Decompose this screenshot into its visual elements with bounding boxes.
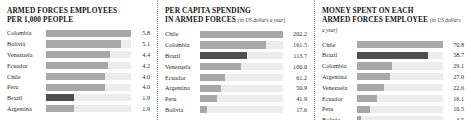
bar-track xyxy=(357,52,443,59)
bar-row: Chile202.2 xyxy=(165,29,307,39)
bar-track xyxy=(46,84,131,91)
bar-row-value: 29.1 xyxy=(446,61,464,71)
bar-row-value: 61.2 xyxy=(286,73,307,83)
panel-1-title-line1: ARMED FORCES EMPLOYEES xyxy=(7,6,117,15)
bar-track xyxy=(200,95,283,102)
bar-row-value: 1.9 xyxy=(134,93,150,103)
bar-row-label: Venezuela xyxy=(7,50,44,60)
bar-row: Colombia5.8 xyxy=(7,28,150,38)
bar-row: Venezuela100.0 xyxy=(165,62,307,72)
bar-row-label: Brazil xyxy=(165,51,198,61)
panel-1-title-line2: PER 1,000 PEOPLE xyxy=(7,15,73,24)
bar xyxy=(357,41,443,48)
bar-highlighted xyxy=(46,94,74,101)
bar-row: Chile70.8 xyxy=(322,40,464,50)
armed-forces-infographic: ARMED FORCES EMPLOYEES PER 1,000 PEOPLE … xyxy=(0,0,471,120)
bar-track xyxy=(200,41,283,48)
bar-highlighted xyxy=(357,52,428,59)
bar-row: Peru10.5 xyxy=(322,104,464,114)
bar-row-label: Chile xyxy=(165,29,198,39)
bar-row-value: 70.8 xyxy=(446,40,464,50)
bar-row: Colombia161.5 xyxy=(165,40,307,50)
panel-3-rows: Chile70.8Brazil58.7Colombia29.1Argentina… xyxy=(322,40,464,120)
bar-row: Colombia29.1 xyxy=(322,61,464,71)
panel-2-title-line1: PER CAPITA SPENDING xyxy=(165,6,251,15)
bar-row-label: Ecuador xyxy=(165,73,198,83)
bar-track xyxy=(46,51,131,58)
bar-row-label: Peru xyxy=(7,82,44,92)
bar-row-value: 4.0 xyxy=(134,72,150,82)
bar-row-value: 27.0 xyxy=(446,72,464,82)
bar-row-label: Ecuador xyxy=(7,61,44,71)
bar-row: Venezuela22.6 xyxy=(322,83,464,93)
bar-row: Peru41.9 xyxy=(165,94,307,104)
bar-track xyxy=(357,73,443,80)
bar-row-value: 202.2 xyxy=(286,29,307,39)
panel-1-title: ARMED FORCES EMPLOYEES PER 1,000 PEOPLE xyxy=(7,6,150,24)
bar-row: Venezuela4.4 xyxy=(7,50,150,60)
bar-row: Argentina27.0 xyxy=(322,72,464,82)
bar-row: Bolivia5.1 xyxy=(7,39,150,49)
bar xyxy=(357,73,390,80)
bar xyxy=(200,31,283,38)
bar-row: Bolivia17.6 xyxy=(165,105,307,115)
bar xyxy=(46,51,110,58)
bar-track xyxy=(200,74,283,81)
bar-row-value: 113.7 xyxy=(286,51,307,61)
bar-track xyxy=(357,116,443,120)
bar xyxy=(200,74,225,81)
bar-track xyxy=(357,95,443,102)
bar-row: Argentina50.9 xyxy=(165,83,307,93)
bar-row: Argentina1.9 xyxy=(7,104,150,114)
bar-row-value: 1.9 xyxy=(134,104,150,114)
panel-3-title-line1: MONEY SPENT ON EACH xyxy=(322,6,414,15)
bar-track xyxy=(200,85,283,92)
bar-row-value: 50.9 xyxy=(286,83,307,93)
bar-highlighted xyxy=(200,52,247,59)
panel-2-title: PER CAPITA SPENDING IN ARMED FORCES (in … xyxy=(165,6,307,25)
bar-row: Bolivia3.5 xyxy=(322,115,464,120)
bar-row-value: 16.1 xyxy=(446,94,464,104)
bar xyxy=(357,95,377,102)
bar-row-label: Bolivia xyxy=(7,39,44,49)
bar-row-label: Brazil xyxy=(7,93,44,103)
bar-row-value: 41.9 xyxy=(286,94,307,104)
bar-track xyxy=(357,62,443,69)
bar xyxy=(46,62,108,69)
panel-2-unit-note: (in US dollars a year) xyxy=(238,17,285,23)
bar xyxy=(200,63,241,70)
bar-track xyxy=(46,105,131,112)
bar-row-label: Bolivia xyxy=(165,105,198,115)
bar xyxy=(200,106,207,113)
bar xyxy=(200,85,221,92)
bar-row-label: Bolivia xyxy=(322,115,355,120)
bar-row-label: Argentina xyxy=(165,83,198,93)
panel-3-title-line2: ARMED FORCES EMPLOYEE xyxy=(322,15,428,24)
panel-per-capita-spending: PER CAPITA SPENDING IN ARMED FORCES (in … xyxy=(157,0,314,120)
bar-track xyxy=(46,73,131,80)
bar-row-value: 22.6 xyxy=(446,83,464,93)
bar xyxy=(200,95,217,102)
bar-row-value: 161.5 xyxy=(286,40,307,50)
bar-track xyxy=(200,31,283,38)
bar-row-label: Chile xyxy=(7,72,44,82)
bar-track xyxy=(46,94,131,101)
bar-row-value: 4.2 xyxy=(134,61,150,71)
panel-1-rows: Colombia5.8Bolivia5.1Venezuela4.4Ecuador… xyxy=(7,28,150,114)
bar-row-label: Colombia xyxy=(322,61,355,71)
bar-row-label: Chile xyxy=(322,40,355,50)
panel-2-rows: Chile202.2Colombia161.5Brazil113.7Venezu… xyxy=(165,29,307,115)
bar-row: Brazil113.7 xyxy=(165,51,307,61)
bar-row-label: Ecuador xyxy=(322,94,355,104)
bar xyxy=(46,105,74,112)
bar-track xyxy=(200,63,283,70)
bar-track xyxy=(357,84,443,91)
bar-row: Brazil1.9 xyxy=(7,93,150,103)
bar-row-label: Colombia xyxy=(165,40,198,50)
bar-track xyxy=(46,62,131,69)
bar-row-value: 3.5 xyxy=(446,115,464,120)
bar-row: Peru4.0 xyxy=(7,82,150,92)
bar-row-label: Argentina xyxy=(322,72,355,82)
bar xyxy=(46,73,105,80)
bar xyxy=(46,40,121,47)
